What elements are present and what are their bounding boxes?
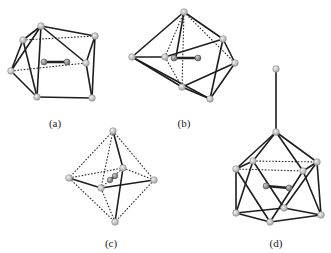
structure-c <box>66 128 158 226</box>
panel-label-c: (c) <box>105 237 117 249</box>
structure-d <box>233 66 325 226</box>
panel-label-d: (d) <box>270 237 283 249</box>
panel-label-b: (b) <box>178 117 191 129</box>
cluster-structures-figure: (a) (b) (c) (d) <box>0 0 331 253</box>
structure-a <box>8 23 99 102</box>
panel-label-a: (a) <box>49 117 61 129</box>
structure-b <box>129 9 239 103</box>
